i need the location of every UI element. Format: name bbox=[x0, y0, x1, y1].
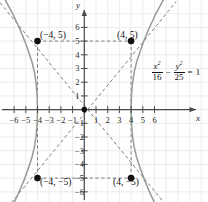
equation-x-denominator: 16 bbox=[152, 72, 163, 83]
equation-y-denominator: 25 bbox=[174, 72, 185, 83]
x-tick-label: 6 bbox=[149, 116, 161, 125]
equation-right-hand-side: 1 bbox=[196, 67, 201, 77]
equation-equals-sign: = bbox=[188, 67, 193, 77]
x-tick-label: 2 bbox=[102, 116, 114, 125]
axes bbox=[2, 10, 196, 200]
y-tick-label: −6 bbox=[68, 188, 84, 197]
point-label-lower-left: (−4, −5) bbox=[40, 178, 71, 188]
x-tick-label: 4 bbox=[125, 116, 137, 125]
point-label-upper-left: (−4, 5) bbox=[40, 31, 66, 41]
x-axis-arrow bbox=[190, 107, 197, 112]
y-tick-label: 3 bbox=[69, 64, 80, 73]
equation-minus-operator: − bbox=[166, 67, 171, 77]
y-axis-label: y bbox=[76, 1, 80, 10]
y-tick-label: −4 bbox=[68, 160, 84, 169]
equation-y-numerator: y2 bbox=[175, 62, 184, 72]
y-tick-label: −3 bbox=[68, 147, 84, 156]
x-tick-label: 3 bbox=[113, 116, 125, 125]
point-label-lower-right: (4, −5) bbox=[113, 178, 139, 188]
y-tick-label: 1 bbox=[69, 92, 80, 101]
hyperbola-equation: x2 16 − y2 25 = 1 bbox=[150, 62, 200, 82]
point-label-upper-right: (4, 5) bbox=[117, 31, 138, 41]
x-axis-label: x bbox=[196, 114, 200, 123]
equation-x-numerator: x2 bbox=[153, 62, 162, 72]
x-tick-label: 1 bbox=[90, 116, 102, 125]
x-tick-label: 5 bbox=[137, 116, 149, 125]
y-axis-arrow bbox=[82, 10, 87, 17]
equation-term-y: y2 25 bbox=[174, 62, 185, 82]
grid-lines bbox=[0, 0, 208, 202]
y-tick-label: −1 bbox=[68, 119, 84, 128]
y-tick-label: 6 bbox=[69, 23, 80, 32]
y-tick-label: −2 bbox=[68, 133, 84, 142]
equation-term-x: x2 16 bbox=[152, 62, 163, 82]
equation-x-exponent: 2 bbox=[158, 60, 161, 66]
y-tick-label: 2 bbox=[69, 78, 80, 87]
hyperbola-graph-figure: −6 −5 −4 −3 −2 −1 1 2 3 4 5 6 6 5 4 3 2 … bbox=[0, 0, 208, 202]
coordinate-plane-svg bbox=[0, 0, 208, 202]
equation-y-exponent: 2 bbox=[180, 60, 183, 66]
y-tick-label: 4 bbox=[69, 51, 80, 60]
origin-marker bbox=[82, 107, 88, 113]
y-tick-label: 5 bbox=[69, 37, 80, 46]
